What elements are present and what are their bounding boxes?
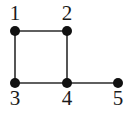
graph-node-label-3: 3 [5, 88, 25, 109]
edge-layer [15, 31, 118, 83]
graph-node-2 [62, 26, 72, 36]
graph-figure: 12345 [0, 0, 128, 116]
graph-node-label-2: 2 [57, 3, 77, 24]
graph-node-label-5: 5 [108, 88, 128, 109]
graph-node-label-1: 1 [5, 3, 25, 24]
graph-node-label-4: 4 [57, 88, 77, 109]
graph-node-1 [10, 26, 20, 36]
